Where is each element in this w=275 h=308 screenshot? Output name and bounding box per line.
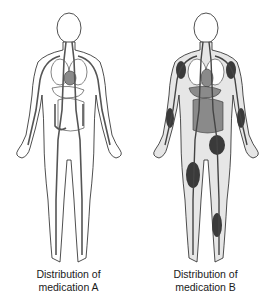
caption-medication-b: Distribution of medication B [137,268,274,294]
intestines [193,98,223,133]
caption-line-1: Distribution of [0,268,137,281]
body-figure-medication-b [137,0,274,270]
caption-line-2: medication B [137,281,274,294]
caption-medication-a: Distribution of medication A [0,268,137,294]
body-outline [154,13,259,262]
human-body-diagram-b [137,0,274,270]
caption-line-2: medication A [0,281,137,294]
body-figure-medication-a [0,0,137,270]
body-outline [17,13,122,262]
calf-muscle-right [212,213,222,237]
caption-line-1: Distribution of [137,268,274,281]
human-body-diagram-a [0,0,137,270]
